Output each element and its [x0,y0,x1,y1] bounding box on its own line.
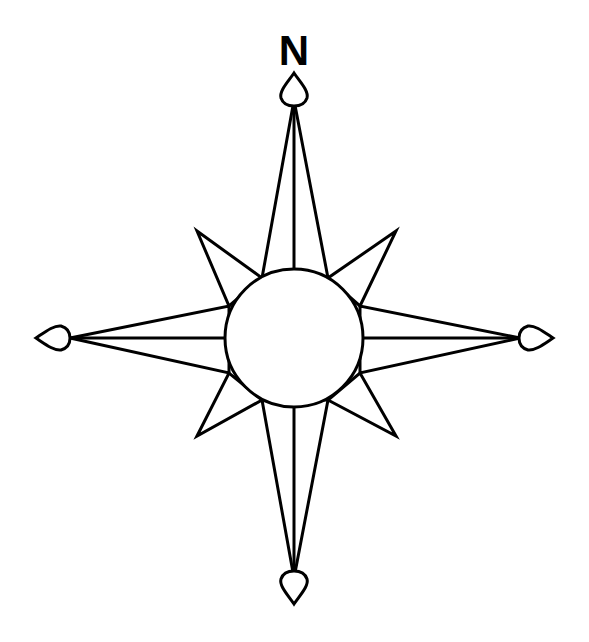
west-finial [36,326,70,350]
east-finial [519,326,553,350]
south-finial [281,571,308,604]
north-finial [281,73,308,106]
center-circle [225,269,363,407]
compass-rose [0,0,589,642]
